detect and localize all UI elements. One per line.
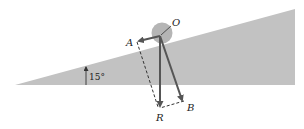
label-r: R bbox=[155, 112, 164, 123]
force-diagram: O A B R 15° bbox=[0, 0, 304, 129]
dashed-line-b-r bbox=[160, 101, 184, 108]
angle-label: 15° bbox=[89, 72, 105, 82]
label-o: O bbox=[172, 17, 180, 28]
inclined-plane bbox=[15, 9, 295, 85]
label-a: A bbox=[125, 37, 133, 48]
diagram-svg: O A B R 15° bbox=[0, 0, 304, 129]
label-b: B bbox=[186, 102, 194, 113]
